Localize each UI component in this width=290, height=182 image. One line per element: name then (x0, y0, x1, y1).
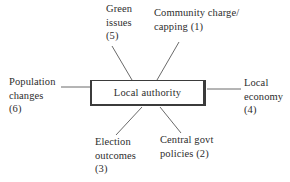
connector-green-issues (112, 46, 132, 80)
factor-community-charge: Community charge/ capping (1) (154, 6, 239, 33)
factor-local-economy: Local economy (4) (244, 76, 283, 117)
factor-green-issues: Green issues (5) (106, 2, 132, 43)
factor-election-outcomes: Election outcomes (3) (95, 135, 136, 176)
connector-election-outcomes (116, 107, 142, 135)
center-node-local-authority: Local authority (90, 80, 206, 106)
connector-community-charge (157, 42, 179, 80)
connector-central-govt-policies (160, 107, 181, 133)
spider-diagram: Local authority Green issues (5) Communi… (0, 0, 290, 182)
factor-population-changes: Population changes (6) (9, 75, 56, 116)
center-node-label: Local authority (114, 87, 181, 98)
factor-central-govt-policies: Central govt policies (2) (160, 133, 213, 160)
